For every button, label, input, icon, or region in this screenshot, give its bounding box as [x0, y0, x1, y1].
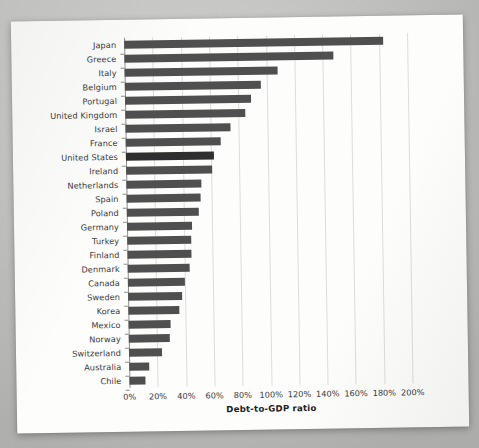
x-tick-label: 80%: [234, 390, 252, 400]
category-label: Netherlands: [67, 180, 118, 191]
bar-row: [126, 162, 409, 174]
bar-netherlands: [126, 180, 201, 189]
bar-poland: [127, 208, 199, 217]
bar-row: [124, 50, 407, 62]
bar-row: [129, 344, 412, 356]
bar-chile: [129, 377, 145, 385]
bar-row: [126, 176, 409, 188]
category-label: Sweden: [87, 292, 120, 303]
category-label: Japan: [93, 40, 116, 50]
bar-greece: [124, 52, 334, 63]
bar-denmark: [128, 264, 190, 273]
category-label: Chile: [100, 376, 121, 386]
bar-row: [125, 120, 408, 132]
bar-row: [126, 134, 409, 146]
category-label: Portugal: [82, 96, 117, 107]
bar-row: [125, 106, 408, 118]
x-tick-label: 100%: [259, 389, 283, 399]
bar-belgium: [125, 81, 261, 91]
category-label: Spain: [95, 194, 119, 204]
category-label: Switzerland: [72, 348, 121, 359]
bar-row: [127, 204, 410, 216]
category-label: Mexico: [91, 320, 120, 330]
category-label: Ireland: [89, 166, 118, 176]
bar-row: [129, 358, 412, 370]
bar-finland: [127, 250, 191, 259]
bar-japan: [124, 37, 383, 49]
category-label: Germany: [81, 222, 119, 233]
bar-row: [125, 64, 408, 76]
x-tick-label: 120%: [288, 389, 312, 399]
bar-row: [128, 274, 411, 286]
bar-row: [128, 260, 411, 272]
printed-page: JapanGreeceItalyBelgiumPortugalUnited Ki…: [11, 14, 469, 433]
category-label: United Kingdom: [50, 110, 117, 121]
bar-row: [127, 246, 410, 258]
category-label: Norway: [89, 334, 121, 344]
bar-sweden: [128, 292, 182, 301]
bar-row: [128, 302, 411, 314]
bar-united-states: [126, 151, 214, 160]
category-label: Australia: [84, 362, 121, 373]
x-tick-label: 20%: [149, 391, 167, 401]
bar-switzerland: [129, 348, 162, 357]
bar-israel: [125, 123, 230, 133]
bar-row: [126, 148, 409, 160]
screenshot-scene: JapanGreeceItalyBelgiumPortugalUnited Ki…: [0, 0, 479, 448]
y-tick-mark: [126, 390, 130, 391]
category-label: France: [90, 138, 118, 148]
bar-row: [129, 316, 412, 328]
bar-france: [126, 137, 221, 146]
bar-norway: [129, 334, 170, 343]
category-axis-labels: JapanGreeceItalyBelgiumPortugalUnited Ki…: [11, 38, 126, 390]
x-tick-label: 40%: [177, 391, 195, 401]
bar-row: [129, 372, 412, 384]
category-label: Korea: [97, 306, 121, 316]
bar-united-kingdom: [125, 109, 245, 119]
plot-area: [124, 33, 412, 387]
bar-row: [128, 288, 411, 300]
bar-mexico: [129, 320, 172, 329]
x-tick-label: 160%: [344, 388, 368, 398]
bar-turkey: [127, 236, 191, 245]
x-tick-label: 0%: [123, 392, 136, 402]
debt-to-gdp-bar-chart: JapanGreeceItalyBelgiumPortugalUnited Ki…: [11, 14, 469, 433]
category-label: Italy: [98, 68, 116, 78]
bar-row: [127, 232, 410, 244]
bar-germany: [127, 222, 192, 231]
category-label: Canada: [88, 278, 120, 288]
category-label: Greece: [87, 54, 117, 64]
x-tick-label: 200%: [401, 387, 425, 397]
bar-spain: [127, 194, 201, 203]
category-label: Poland: [91, 208, 119, 218]
x-tick-label: 140%: [316, 388, 340, 398]
bar-series: [124, 33, 412, 387]
bar-row: [124, 36, 407, 48]
category-label: Israel: [94, 124, 117, 134]
bar-row: [129, 330, 412, 342]
bar-ireland: [126, 165, 212, 174]
x-tick-label: 180%: [373, 388, 397, 398]
bar-korea: [128, 306, 179, 315]
category-label: Finland: [89, 250, 119, 260]
x-tick-label: 60%: [205, 390, 223, 400]
bar-row: [127, 190, 410, 202]
category-label: United States: [61, 152, 118, 163]
bar-row: [125, 92, 408, 104]
category-label: Belgium: [82, 82, 116, 93]
category-label: Denmark: [81, 264, 119, 275]
bar-canada: [128, 278, 185, 287]
bar-australia: [129, 362, 149, 370]
bar-italy: [125, 66, 278, 76]
bar-portugal: [125, 95, 251, 105]
bar-row: [125, 78, 408, 90]
category-label: Turkey: [92, 236, 119, 246]
bar-row: [127, 218, 410, 230]
